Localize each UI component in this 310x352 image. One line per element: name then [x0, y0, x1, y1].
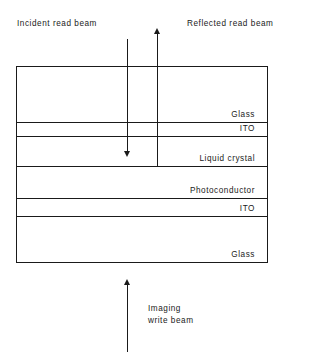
- diagram-canvas: Incident read beam Reflected read beam G…: [0, 0, 310, 352]
- imaging-write-beam-label: Imaging write beam: [148, 303, 194, 326]
- layer-liquid-crystal: Liquid crystal: [17, 137, 267, 167]
- device-stack: Glass ITO Liquid crystal Photoconductor …: [16, 66, 268, 263]
- incident-read-beam-label: Incident read beam: [17, 18, 97, 29]
- incident-read-beam-arrowhead: [124, 151, 130, 157]
- layer-label: Glass: [231, 250, 255, 259]
- imaging-write-beam-arrowhead: [124, 279, 130, 285]
- layer-label: ITO: [240, 124, 255, 133]
- layer-ito-bottom: ITO: [17, 199, 267, 217]
- layer-label: Glass: [231, 110, 255, 119]
- layer-label: ITO: [240, 204, 255, 213]
- layer-ito-top: ITO: [17, 123, 267, 137]
- layer-glass-bottom: Glass: [17, 217, 267, 262]
- layer-glass-top: Glass: [17, 67, 267, 123]
- layer-label: Liquid crystal: [200, 154, 255, 163]
- reflected-read-beam-arrowhead: [154, 28, 160, 34]
- layer-label: Photoconductor: [190, 186, 255, 195]
- imaging-write-beam-line: [127, 285, 128, 352]
- incident-read-beam-line: [127, 39, 128, 153]
- layer-photoconductor: Photoconductor: [17, 167, 267, 199]
- reflected-read-beam-label: Reflected read beam: [187, 18, 273, 29]
- reflected-read-beam-line: [157, 34, 158, 166]
